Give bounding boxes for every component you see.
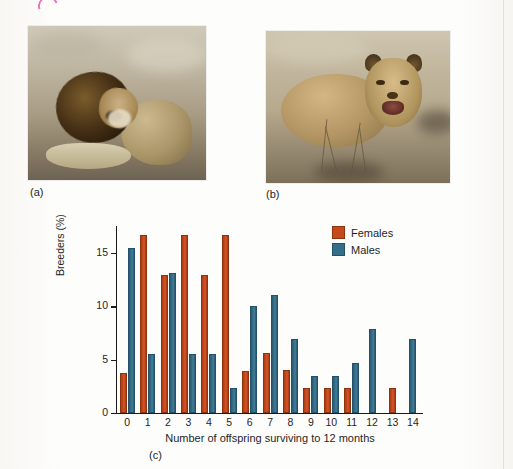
- x-tick-label-12: 12: [362, 416, 382, 428]
- lioness-mouth: [382, 101, 404, 115]
- bar-males-0: [128, 248, 135, 413]
- x-tick-label-14: 14: [403, 416, 423, 428]
- photo-lioness: [266, 31, 450, 183]
- y-tick-mark: [111, 253, 116, 254]
- legend-item-males: Males: [332, 243, 393, 256]
- y-tick-label: 0: [102, 406, 108, 418]
- bar-females-3: [181, 235, 188, 413]
- bar-males-8: [291, 339, 298, 413]
- y-tick-label: 5: [102, 353, 108, 365]
- x-tick-label-0: 0: [117, 416, 137, 428]
- panel-label-c: (c): [149, 449, 162, 461]
- x-tick-label-4: 4: [199, 416, 219, 428]
- bar-females-8: [283, 370, 290, 413]
- bar-females-4: [201, 275, 208, 413]
- x-tick-label-2: 2: [158, 416, 178, 428]
- y-tick-label: 15: [96, 246, 108, 258]
- bar-females-5: [222, 235, 229, 413]
- legend-swatch-females-icon: [332, 226, 345, 239]
- bar-category-14: [403, 226, 423, 413]
- bar-category-2: [158, 226, 178, 413]
- y-tick-mark: [111, 360, 116, 361]
- bar-females-2: [161, 275, 168, 413]
- bar-males-9: [311, 376, 318, 413]
- chart-legend: Females Males: [332, 226, 393, 260]
- legend-label-males: Males: [351, 244, 380, 256]
- x-tick-label-6: 6: [239, 416, 259, 428]
- y-tick-mark: [111, 306, 116, 307]
- bar-males-2: [169, 273, 176, 413]
- bar-category-7: [260, 226, 280, 413]
- page-edge-line: [503, 0, 504, 469]
- pink-annotation-mark: [35, 0, 62, 19]
- panel-label-a: (a): [30, 186, 43, 198]
- bar-category-5: [219, 226, 239, 413]
- bar-males-12: [369, 329, 376, 413]
- x-tick-label-10: 10: [321, 416, 341, 428]
- photo-male-lion: [28, 26, 206, 180]
- x-tick-label-3: 3: [178, 416, 198, 428]
- x-tick-label-11: 11: [341, 416, 361, 428]
- legend-item-females: Females: [332, 226, 393, 239]
- bar-males-14: [409, 339, 416, 413]
- breeders-bar-chart: Breeders (%) 051015 01234567891011121314…: [60, 218, 460, 433]
- panel-label-b: (b): [266, 188, 279, 200]
- bar-males-4: [209, 354, 216, 413]
- bar-males-11: [352, 363, 359, 413]
- bar-category-1: [137, 226, 157, 413]
- bar-category-6: [239, 226, 259, 413]
- lion-muzzle: [108, 109, 131, 127]
- bar-category-0: [117, 226, 137, 413]
- lioness-eye-left: [376, 80, 384, 85]
- x-tick-label-9: 9: [301, 416, 321, 428]
- bar-females-10: [324, 388, 331, 413]
- x-tick-label-5: 5: [219, 416, 239, 428]
- photo-a-haze-2: [32, 32, 103, 60]
- bar-males-10: [332, 376, 339, 413]
- photo-b-dirt: [314, 162, 384, 183]
- bar-females-7: [263, 353, 270, 413]
- bar-males-6: [250, 306, 257, 413]
- y-tick-mark: [111, 413, 116, 414]
- bar-females-1: [140, 235, 147, 413]
- bar-males-1: [148, 354, 155, 413]
- bar-females-9: [303, 388, 310, 413]
- bar-category-8: [280, 226, 300, 413]
- y-axis-title: Breeders (%): [54, 214, 66, 276]
- bar-males-5: [230, 388, 237, 413]
- y-tick-label: 10: [96, 299, 108, 311]
- bar-category-3: [178, 226, 198, 413]
- bar-females-0: [120, 373, 127, 413]
- bar-males-7: [271, 295, 278, 413]
- figure-page: (a) (b) Breeders (%) 051015 012345678910…: [0, 0, 513, 469]
- x-axis-title: Number of offspring surviving to 12 mont…: [117, 432, 423, 444]
- x-tick-group: 01234567891011121314: [117, 416, 423, 428]
- x-axis-line: [116, 413, 423, 414]
- bar-category-9: [301, 226, 321, 413]
- x-tick-label-1: 1: [137, 416, 157, 428]
- x-tick-label-13: 13: [382, 416, 402, 428]
- bar-females-13: [389, 388, 396, 413]
- x-tick-label-7: 7: [260, 416, 280, 428]
- legend-label-females: Females: [351, 227, 393, 239]
- bar-category-4: [199, 226, 219, 413]
- photo-a-haze: [126, 38, 206, 72]
- legend-swatch-males-icon: [332, 243, 345, 256]
- bar-females-11: [344, 388, 351, 413]
- bar-females-6: [242, 371, 249, 413]
- x-tick-label-8: 8: [280, 416, 300, 428]
- bar-males-3: [189, 354, 196, 413]
- lioness-eye-right: [400, 80, 408, 85]
